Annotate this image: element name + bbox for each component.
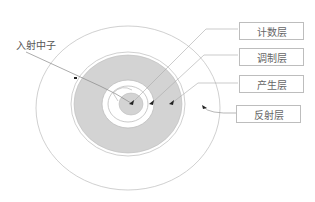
entry-point-marker (74, 77, 77, 79)
label-reflector-layer: 反射层 (236, 105, 301, 123)
label-production-layer: 产生层 (239, 75, 304, 93)
incident-neutron-label: 入射中子 (16, 37, 56, 52)
label-moderator-layer: 调制层 (239, 48, 304, 66)
label-counter-layer: 计数层 (239, 22, 304, 40)
